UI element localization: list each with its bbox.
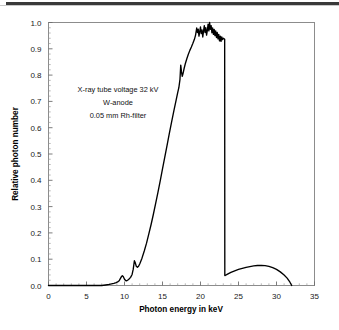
x-tick-label: 20: [196, 292, 205, 301]
x-tick-label: 35: [310, 292, 319, 301]
annotation-line-3: 0.05 mm Rh-filter: [90, 111, 147, 120]
y-tick-label: 0.6: [30, 124, 42, 133]
xray-spectrum-chart: 05101520253035 0.00.10.20.30.40.50.60.70…: [0, 0, 339, 330]
annotation-line-1: X-ray tube voltage 32 kV: [78, 85, 159, 94]
figure-container: 05101520253035 0.00.10.20.30.40.50.60.70…: [0, 0, 339, 330]
x-tick-label: 10: [120, 292, 129, 301]
x-axis-tick-labels: 05101520253035: [46, 292, 319, 301]
y-tick-label: 0.7: [30, 97, 42, 106]
x-tick-label: 30: [272, 292, 281, 301]
x-tick-label: 15: [158, 292, 167, 301]
y-tick-label: 0.2: [30, 229, 42, 238]
y-tick-label: 1.0: [30, 19, 42, 28]
spectrum-curve: [49, 23, 292, 286]
y-tick-label: 0.8: [30, 71, 42, 80]
annotation-line-2: W-anode: [103, 98, 133, 107]
x-axis-title: Photon energy in keV: [139, 305, 223, 314]
y-tick-label: 0.5: [30, 150, 42, 159]
x-tick-label: 25: [234, 292, 243, 301]
y-tick-label: 0.0: [30, 282, 42, 291]
y-axis-ticks: [49, 23, 53, 286]
x-tick-label: 5: [84, 292, 89, 301]
x-tick-label: 0: [46, 292, 51, 301]
y-tick-label: 0.9: [30, 45, 42, 54]
y-tick-label: 0.4: [30, 176, 42, 185]
y-tick-label: 0.3: [30, 203, 42, 212]
y-axis-tick-labels: 0.00.10.20.30.40.50.60.70.80.91.0: [30, 19, 42, 291]
y-axis-title: Relative photon number: [11, 106, 20, 201]
y-tick-label: 0.1: [30, 255, 42, 264]
plot-frame: [49, 23, 315, 286]
